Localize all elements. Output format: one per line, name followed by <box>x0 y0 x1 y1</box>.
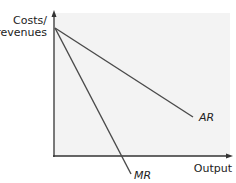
y-axis-label-line2: revenues <box>0 26 47 39</box>
x-axis-label: Output <box>194 162 233 175</box>
chart: Costs/ revenues Output AR MR <box>0 0 236 183</box>
mr-label: MR <box>134 169 151 182</box>
ar-label: AR <box>198 111 214 124</box>
